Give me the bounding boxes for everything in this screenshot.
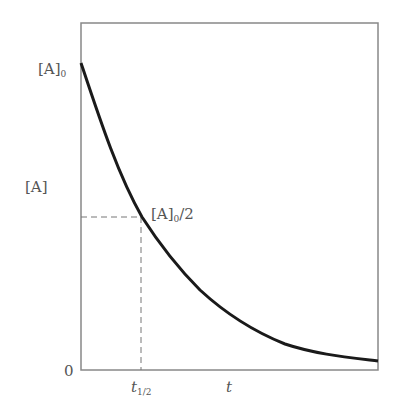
half-value-label: [A]0/2 (151, 207, 194, 224)
plot-frame (81, 23, 378, 370)
decay-curve (81, 63, 378, 361)
y-initial-label: [A]0 (38, 62, 66, 79)
zero-label: 0 (64, 364, 74, 379)
x-axis-label: t (226, 380, 232, 395)
y-axis-label: [A] (25, 180, 48, 195)
half-life-label: t1/2 (131, 380, 152, 397)
